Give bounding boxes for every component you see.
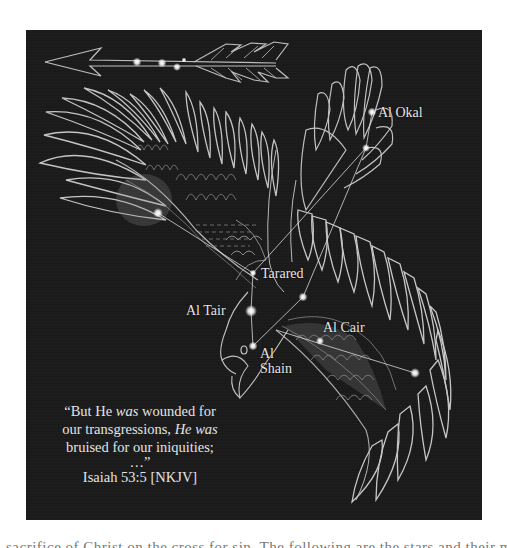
star-okal-2 — [362, 144, 370, 152]
label-al-tair: Al Tair — [186, 303, 226, 318]
star-al-tair — [245, 305, 257, 317]
label-al-cair: Al Cair — [323, 320, 365, 335]
label-al-shain-line1: Al — [260, 346, 274, 361]
star-al-okal — [368, 108, 377, 117]
lower-wing-shading — [284, 323, 386, 410]
constellation-figure: Al Okal Tarared Al Tair Al Cair Al Shain… — [26, 30, 482, 520]
quote-reference: Isaiah 53:5 [NKJV] — [30, 468, 250, 486]
left-wing-shading — [116, 174, 172, 226]
label-tarared: Tarared — [261, 266, 304, 281]
arrow-drawing — [45, 42, 288, 82]
arrow-star-2 — [158, 59, 167, 68]
arrow-star-1 — [133, 58, 142, 67]
star-tarared — [250, 270, 257, 277]
quote-line-1: “But He was wounded for — [30, 402, 250, 420]
arrow-star-4 — [182, 58, 187, 63]
star-left-wing — [153, 208, 163, 218]
star-mid — [299, 293, 308, 302]
clipped-caption: sacrifice of Christ on the cross for sin… — [0, 538, 507, 548]
upper-right-wing-drawing — [301, 64, 393, 210]
constellation-lines — [158, 112, 415, 373]
caption-text: sacrifice of Christ on the cross for sin… — [0, 538, 507, 548]
label-al-okal: Al Okal — [378, 105, 423, 120]
quote-line-4: …” — [30, 456, 250, 468]
star-tail — [410, 368, 420, 378]
star-al-cair — [316, 337, 324, 345]
star-al-shain — [249, 342, 258, 351]
quote-line-2: our transgressions, He was — [30, 420, 250, 438]
scripture-quote: “But He was wounded for our transgressio… — [30, 402, 250, 486]
label-al-shain-line2: Shain — [260, 361, 292, 376]
arrow-star-3 — [173, 63, 181, 71]
